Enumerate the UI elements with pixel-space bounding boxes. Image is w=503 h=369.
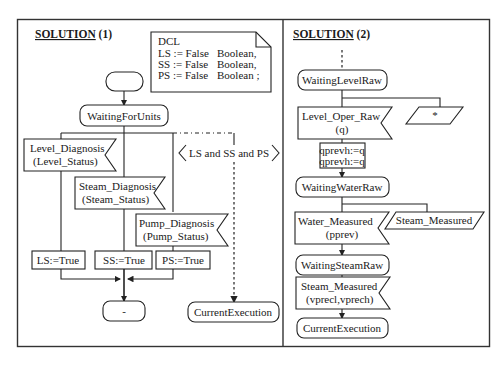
task-qprevh-line2: qprevh:=q xyxy=(319,155,365,167)
save-steam-measured-label: Steam_Measured xyxy=(396,214,473,226)
panel-solution-2: SOLUTION (2) WaitingLevelRaw Level_Oper_… xyxy=(293,28,484,338)
sdl-diagram: SOLUTION (1) DCL LS := False Boolean, SS… xyxy=(0,0,503,369)
dcl-type-ps: Boolean ; xyxy=(217,69,259,81)
task-ss-true-label: SS:=True xyxy=(103,254,145,266)
panel2-title-suffix: (2) xyxy=(357,28,371,41)
panel1-title-suffix: (1) xyxy=(99,28,113,41)
task-ps-true-label: PS:=True xyxy=(162,254,204,266)
save-symbol-asterisk: * xyxy=(406,107,463,124)
condition-label: LS and SS and PS xyxy=(189,147,269,159)
state-waiting-level-raw-label: WaitingLevelRaw xyxy=(302,74,382,86)
input-steam-diagnosis: Steam_Diagnosis (Steam_Status) xyxy=(75,177,165,209)
input-level-oper-raw-param: (q) xyxy=(336,123,349,136)
input-water-measured: Water_Measured (pprev) xyxy=(295,212,389,244)
save-symbol-label: * xyxy=(432,109,438,121)
input-water-measured-param: (pprev) xyxy=(326,228,359,241)
input-steam-measured-label: Steam_Measured xyxy=(301,280,378,292)
state-current-execution-1-label: CurrentExecution xyxy=(194,306,273,318)
input-level-oper-raw-label: Level_Oper_Raw xyxy=(302,110,380,122)
input-pump-diagnosis-label: Pump_Diagnosis xyxy=(139,217,214,229)
input-steam-measured-param: (vprecl,vprech) xyxy=(306,293,374,306)
input-level-oper-raw: Level_Oper_Raw (q) xyxy=(298,107,392,139)
task-ls-true-label: LS:=True xyxy=(37,254,80,266)
dcl-var-ps: PS := False xyxy=(158,69,208,81)
state-dash-label: - xyxy=(122,305,126,317)
input-pump-diagnosis-param: (Pump_Status) xyxy=(143,230,209,243)
panel-solution-1: SOLUTION (1) DCL LS := False Boolean, SS… xyxy=(24,28,279,322)
input-level-diagnosis-param: (Level_Status) xyxy=(33,155,98,168)
input-steam-measured: Steam_Measured (vprecl,vprech) xyxy=(296,277,390,309)
panel1-title-text: SOLUTION xyxy=(35,28,96,40)
panel2-title-text: SOLUTION xyxy=(293,28,354,40)
input-water-measured-label: Water_Measured xyxy=(298,215,373,227)
continuous-signal-condition: LS and SS and PS xyxy=(179,145,279,161)
input-steam-diagnosis-label: Steam_Diagnosis xyxy=(79,180,156,192)
input-pump-diagnosis: Pump_Diagnosis (Pump_Status) xyxy=(136,214,228,246)
dcl-header: DCL xyxy=(158,35,180,47)
input-level-diagnosis: Level_Diagnosis (Level_Status) xyxy=(24,139,116,171)
state-current-execution-2-label: CurrentExecution xyxy=(303,322,382,334)
state-waiting-for-units-label: WaitingForUnits xyxy=(87,110,161,122)
input-level-diagnosis-label: Level_Diagnosis xyxy=(30,142,105,154)
panel1-title: SOLUTION (1) xyxy=(35,28,112,41)
input-steam-diagnosis-param: (Steam_Status) xyxy=(82,193,150,206)
dcl-declaration-box: DCL LS := False Boolean, SS := False Boo… xyxy=(151,32,271,92)
start-state xyxy=(106,72,143,91)
panel2-title: SOLUTION (2) xyxy=(293,28,370,41)
state-waiting-water-raw-label: WaitingWaterRaw xyxy=(302,181,383,193)
state-waiting-steam-raw-label: WaitingSteamRaw xyxy=(301,259,383,271)
save-steam-measured: Steam_Measured xyxy=(385,212,484,229)
